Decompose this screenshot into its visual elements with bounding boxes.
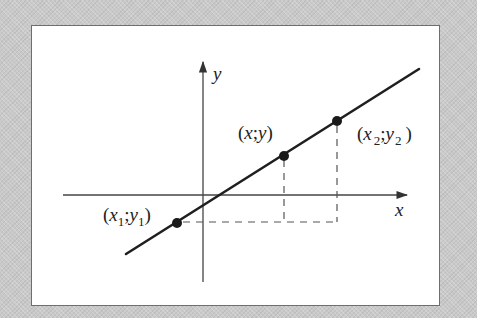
point-label-x-y: (x;y) [238,122,273,144]
point-x1-y1 [172,218,182,228]
y-axis-label: y [211,63,222,84]
line-through-two-points-diagram: y x (x1;y1) (x;y) (x2;y2) [0,0,477,318]
x-axis-label: x [394,199,404,220]
point-label-x1-y1: (x1;y1) [103,204,151,229]
point-label-x2-y2: (x2;y2) [357,123,412,148]
point-x-y [279,151,289,161]
point-x2-y2 [332,116,342,126]
straight-line [126,69,419,254]
